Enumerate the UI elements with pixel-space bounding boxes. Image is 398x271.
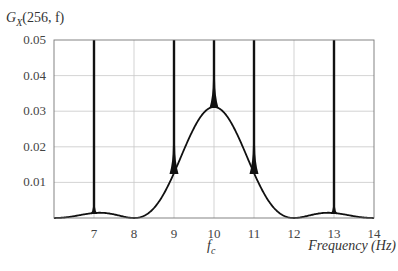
x-tick-label: 12 xyxy=(288,226,301,241)
y-tick-label: 0.05 xyxy=(23,32,46,47)
y-tick-label: 0.03 xyxy=(23,103,46,118)
spectrum-chart: 7891011121314 0.010.020.030.040.05 GX(25… xyxy=(0,0,398,271)
spectral-line-base xyxy=(210,79,219,108)
y-tick-label: 0.02 xyxy=(23,139,46,154)
y-tick-label: 0.04 xyxy=(23,68,46,83)
y-axis-ticks: 0.010.020.030.040.05 xyxy=(23,32,46,189)
x-tick-label: 7 xyxy=(91,226,98,241)
x-tick-label: 8 xyxy=(131,226,138,241)
y-tick-label: 0.01 xyxy=(23,174,46,189)
spectral-line-base xyxy=(91,207,98,214)
spectral-line-base xyxy=(170,145,179,174)
x-tick-label: 9 xyxy=(171,226,178,241)
y-axis-label: GX(256, f) xyxy=(6,10,65,28)
spectral-line-base xyxy=(250,145,259,174)
spectral-line-base xyxy=(331,207,338,214)
x-axis-label: Frequency (Hz) xyxy=(307,238,396,254)
x-tick-label: 11 xyxy=(248,226,261,241)
